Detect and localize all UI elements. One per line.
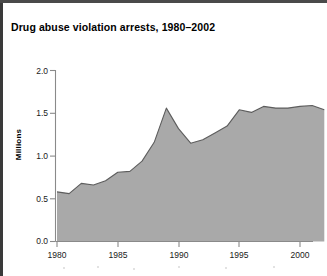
- figure-panel: Drug abuse violation arrests, 1980–2002 …: [0, 0, 327, 276]
- area-series-fill: [57, 106, 324, 242]
- area-chart-svg: [0, 0, 327, 276]
- area-series-group: [57, 106, 324, 242]
- scan-artifact: [60, 266, 310, 270]
- chart-plot-area: Millions 2.0 1.5 1.0 0.5 0.0 1980 1985 1…: [0, 0, 327, 276]
